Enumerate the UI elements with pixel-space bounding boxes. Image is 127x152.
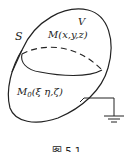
diagram-canvas: S V M(x,y,z) M0(ξ η,ζ) 图 5.1 xyxy=(0,0,127,152)
figure-caption: 图 5.1 xyxy=(52,146,81,152)
point-m0-main: M xyxy=(16,86,28,97)
cross-section-solid xyxy=(22,54,102,76)
surface-tail-line xyxy=(12,50,22,72)
volume-label-v: V xyxy=(78,16,87,27)
point-m0-label: M0(ξ η,ζ) xyxy=(16,86,63,99)
point-m0-args: (ξ η,ζ) xyxy=(32,86,63,97)
cross-section-dashed xyxy=(22,47,102,70)
surface-label-s: S xyxy=(15,30,23,43)
ground-wire xyxy=(80,98,114,116)
ground-icon xyxy=(104,116,124,122)
surface-outline xyxy=(8,9,111,122)
point-m-label: M(x,y,z) xyxy=(47,29,88,40)
